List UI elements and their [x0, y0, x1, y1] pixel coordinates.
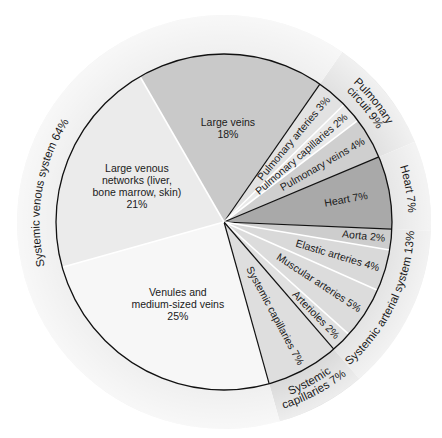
blood-distribution-pie-chart: Large veins18%Pulmonary arteries 3%Pulmo…	[0, 0, 442, 438]
inner-pie-slices	[56, 54, 392, 390]
